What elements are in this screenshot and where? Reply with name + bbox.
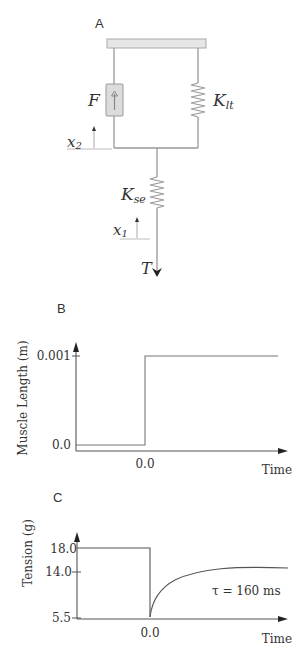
figure: A F Klt x2 Kse x1 T bbox=[0, 0, 306, 661]
x2-arrow-up-icon bbox=[92, 126, 96, 131]
c-ytick-5.5: 5.5 bbox=[52, 611, 71, 625]
b-step-line bbox=[76, 356, 278, 445]
ceiling-bar bbox=[107, 39, 206, 48]
series-spring-icon bbox=[150, 177, 164, 208]
c-ytick-14: 14.0 bbox=[45, 565, 72, 579]
label-x1-sub: 1 bbox=[121, 228, 127, 239]
svg-text:Kse: Kse bbox=[120, 184, 146, 206]
label-K-lt-sub: lt bbox=[226, 99, 235, 112]
contractile-element bbox=[106, 84, 123, 116]
c-ytick-18: 18.0 bbox=[50, 542, 77, 556]
c-xtick-0.0: 0.0 bbox=[140, 626, 159, 640]
c-xlabel: Time bbox=[262, 632, 292, 646]
panel-c-label: C bbox=[53, 490, 62, 505]
panel-b-label: B bbox=[57, 301, 66, 316]
c-ylabel: Tension (g) bbox=[21, 519, 35, 587]
c-step-line bbox=[77, 548, 150, 617]
label-K-se-sub: se bbox=[134, 193, 147, 206]
label-F: F bbox=[87, 90, 101, 110]
label-x2-sub: 2 bbox=[74, 140, 81, 151]
svg-text:x2: x2 bbox=[67, 133, 82, 151]
panel-a-label: A bbox=[95, 16, 104, 31]
b-x-axis-arrow-icon bbox=[278, 448, 288, 454]
b-xlabel: Time bbox=[262, 463, 292, 477]
b-xtick-0.0: 0.0 bbox=[135, 457, 154, 471]
x1-arrow-up-icon bbox=[135, 217, 139, 222]
c-x-axis-arrow-icon bbox=[278, 616, 288, 622]
b-y-axis-arrow-icon bbox=[73, 342, 79, 352]
parallel-spring-icon bbox=[191, 83, 205, 117]
c-y-axis-arrow-icon bbox=[74, 532, 80, 542]
svg-text:Klt: Klt bbox=[212, 90, 234, 112]
b-ylabel: Muscle Length (m) bbox=[16, 340, 30, 455]
b-ytick-0.001: 0.001 bbox=[37, 349, 71, 363]
svg-text:x1: x1 bbox=[113, 221, 128, 239]
c-annotation-tau: τ = 160 ms bbox=[212, 584, 281, 598]
b-ytick-0.0: 0.0 bbox=[52, 438, 71, 452]
label-T: T bbox=[141, 259, 153, 278]
